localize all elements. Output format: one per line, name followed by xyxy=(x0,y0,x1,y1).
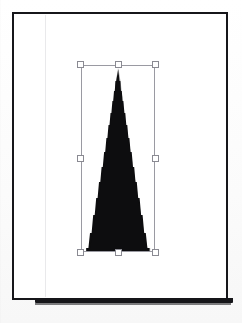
selection-frame[interactable] xyxy=(81,65,155,252)
handle-w[interactable] xyxy=(77,155,84,162)
document-page-wrapper xyxy=(12,12,228,300)
handle-s[interactable] xyxy=(115,249,122,256)
handle-n[interactable] xyxy=(115,61,122,68)
page-bottom-shadow-soft xyxy=(35,303,231,305)
handle-ne[interactable] xyxy=(152,61,159,68)
selection-outline xyxy=(81,65,155,252)
handle-nw[interactable] xyxy=(77,61,84,68)
handle-sw[interactable] xyxy=(77,249,84,256)
handle-se[interactable] xyxy=(152,249,159,256)
canvas-root xyxy=(0,0,242,323)
handle-e[interactable] xyxy=(152,155,159,162)
left-margin-guide xyxy=(45,15,46,297)
